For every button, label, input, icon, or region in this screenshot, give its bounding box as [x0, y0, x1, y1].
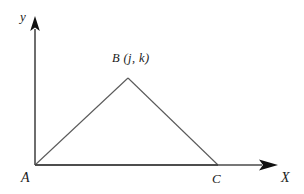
triangle-side-ab: [35, 78, 128, 165]
arrow-up-solid-icon: [30, 16, 40, 31]
x-axis-label: X: [281, 171, 290, 185]
vertex-label-a: A: [21, 171, 30, 185]
triangle-side-bc: [128, 78, 218, 165]
vertex-label-b: B (j, k): [112, 52, 150, 65]
diagram-canvas: [0, 0, 304, 194]
y-axis-label: y: [20, 10, 26, 23]
geometry-figure: y X A B (j, k) C: [0, 0, 304, 194]
vertex-label-c: C: [212, 172, 221, 185]
